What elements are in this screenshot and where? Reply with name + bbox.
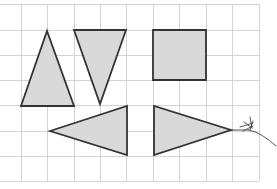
triangle-down xyxy=(74,30,126,104)
triangle-left xyxy=(50,106,127,155)
triangle-up xyxy=(21,31,74,106)
pencil-stroke xyxy=(249,130,276,146)
triangle-right xyxy=(154,106,231,155)
square xyxy=(153,30,206,80)
shape-grid-diagram xyxy=(0,0,277,189)
pencil-stroke xyxy=(250,121,253,130)
